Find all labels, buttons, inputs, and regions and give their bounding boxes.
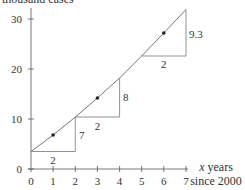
x-axis-variable: x: [198, 160, 205, 174]
data-point: [96, 96, 100, 100]
run-label: 2: [95, 120, 101, 132]
x-tick-label: 3: [95, 175, 101, 187]
y-ticks: 0 10 20 30: [11, 13, 34, 175]
rise-label: 7: [79, 129, 85, 141]
x-axis-title: x years since 2000: [190, 160, 242, 188]
data-point: [162, 31, 166, 35]
run-label: 2: [161, 58, 167, 70]
x-tick-label: 0: [28, 175, 34, 187]
secant-triangle-3: 2 9.3: [142, 10, 204, 71]
rise-label: 9.3: [189, 28, 203, 40]
y-tick-label: 20: [11, 63, 23, 75]
x-tick-label: 1: [50, 175, 56, 187]
x-tick-label: 6: [161, 175, 167, 187]
y-tick-label: 0: [17, 163, 23, 175]
x-tick-label: 2: [73, 175, 79, 187]
x-axis-unit: years: [208, 160, 234, 174]
data-line: [31, 10, 186, 152]
run-label: 2: [50, 154, 56, 166]
y-axis-title: thousand cases: [2, 0, 74, 6]
y-tick-label: 10: [11, 113, 23, 125]
secant-triangle-1: 2 7: [31, 117, 85, 166]
secant-triangle-2: 2 8: [75, 78, 129, 132]
x-tick-label: 4: [117, 175, 123, 187]
svg-text:x years: x years: [198, 160, 233, 174]
rise-label: 8: [123, 91, 129, 103]
y-tick-label: 30: [11, 13, 23, 25]
data-point: [51, 133, 55, 137]
chart: thousand cases 0 10 20 30 0 1 2 3 4 5 6 …: [0, 0, 245, 190]
x-axis-subtitle: since 2000: [190, 174, 242, 188]
x-tick-label: 5: [139, 175, 145, 187]
x-tick-label: 7: [183, 175, 189, 187]
